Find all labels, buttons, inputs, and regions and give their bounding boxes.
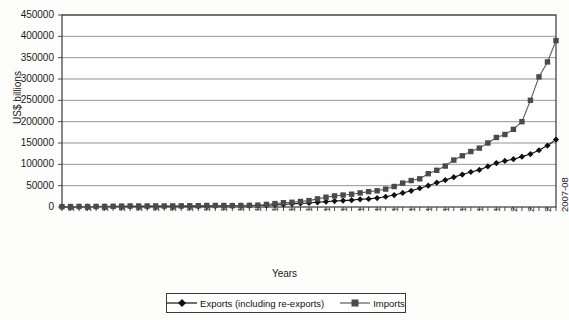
data-point-marker bbox=[93, 204, 98, 209]
data-point-marker bbox=[468, 149, 473, 154]
diamond-marker-icon bbox=[167, 297, 197, 309]
data-point-marker bbox=[272, 201, 277, 206]
data-point-marker bbox=[127, 203, 132, 208]
data-point-marker bbox=[247, 203, 252, 208]
legend-item-imports: Imports bbox=[340, 297, 405, 309]
data-point-marker bbox=[451, 157, 456, 162]
data-point-marker bbox=[434, 168, 439, 173]
data-point-marker bbox=[85, 204, 90, 209]
data-point-marker bbox=[306, 198, 311, 203]
data-point-marker bbox=[255, 203, 260, 208]
chart-legend: Exports (including re-exports) Imports bbox=[166, 293, 406, 313]
data-point-marker bbox=[357, 190, 362, 195]
data-point-marker bbox=[391, 184, 396, 189]
plot-area bbox=[0, 0, 569, 320]
data-point-marker bbox=[170, 203, 175, 208]
data-point-marker bbox=[204, 203, 209, 208]
data-point-marker bbox=[315, 196, 320, 201]
data-point-marker bbox=[230, 203, 235, 208]
square-marker-icon bbox=[340, 297, 370, 309]
data-point-marker bbox=[136, 203, 141, 208]
data-point-marker bbox=[511, 127, 516, 132]
data-point-marker bbox=[536, 74, 541, 79]
data-point-marker bbox=[366, 189, 371, 194]
data-point-marker bbox=[179, 203, 184, 208]
data-point-marker bbox=[553, 38, 558, 43]
data-point-marker bbox=[102, 204, 107, 209]
trade-line-chart: US$ billions Years 450000400000350000300… bbox=[0, 0, 569, 320]
data-point-marker bbox=[110, 204, 115, 209]
legend-label-exports: Exports (including re-exports) bbox=[200, 298, 324, 309]
data-point-marker bbox=[477, 145, 482, 150]
data-point-marker bbox=[76, 204, 81, 209]
data-point-marker bbox=[281, 200, 286, 205]
data-point-marker bbox=[349, 192, 354, 197]
data-point-marker bbox=[417, 176, 422, 181]
data-point-marker bbox=[494, 135, 499, 140]
data-point-marker bbox=[221, 203, 226, 208]
data-point-marker bbox=[519, 119, 524, 124]
data-point-marker bbox=[426, 171, 431, 176]
data-point-marker bbox=[238, 203, 243, 208]
data-point-marker bbox=[383, 186, 388, 191]
legend-item-exports: Exports (including re-exports) bbox=[167, 297, 324, 309]
data-point-marker bbox=[340, 192, 345, 197]
data-point-marker bbox=[409, 178, 414, 183]
data-point-marker bbox=[119, 203, 124, 208]
data-point-marker bbox=[460, 153, 465, 158]
data-point-marker bbox=[323, 194, 328, 199]
data-point-marker bbox=[162, 203, 167, 208]
data-point-marker bbox=[400, 180, 405, 185]
data-point-marker bbox=[332, 193, 337, 198]
data-point-marker bbox=[545, 59, 550, 64]
data-point-marker bbox=[68, 204, 73, 209]
data-point-marker bbox=[59, 204, 64, 209]
data-point-marker bbox=[374, 188, 379, 193]
data-point-marker bbox=[153, 203, 158, 208]
data-point-marker bbox=[289, 200, 294, 205]
plot-background bbox=[62, 15, 556, 207]
data-point-marker bbox=[502, 132, 507, 137]
data-point-marker bbox=[298, 199, 303, 204]
data-point-marker bbox=[528, 98, 533, 103]
data-point-marker bbox=[196, 203, 201, 208]
data-point-marker bbox=[485, 140, 490, 145]
data-point-marker bbox=[213, 203, 218, 208]
data-point-marker bbox=[264, 202, 269, 207]
data-point-marker bbox=[187, 203, 192, 208]
legend-label-imports: Imports bbox=[373, 298, 405, 309]
data-point-marker bbox=[144, 203, 149, 208]
data-point-marker bbox=[443, 163, 448, 168]
